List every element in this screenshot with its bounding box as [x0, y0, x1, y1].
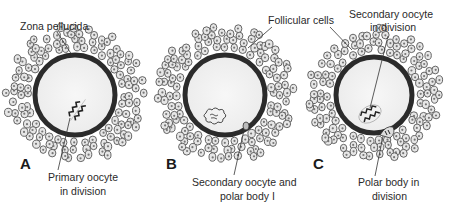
cell-nucleus — [200, 151, 202, 153]
cell-nucleus — [276, 111, 278, 113]
cell-nucleus — [110, 135, 112, 137]
cell-nucleus — [176, 86, 178, 88]
cell-nucleus — [419, 121, 421, 123]
cell-nucleus — [12, 101, 14, 103]
cell-nucleus — [229, 33, 231, 35]
polar-body-i-icon — [243, 122, 249, 130]
cell-nucleus — [267, 140, 269, 142]
cell-nucleus — [352, 37, 354, 39]
cell-nucleus — [259, 61, 261, 63]
cell-nucleus — [254, 47, 256, 49]
cell-nucleus — [33, 38, 35, 40]
cell-nucleus — [184, 130, 186, 132]
cell-nucleus — [224, 142, 226, 144]
cell-nucleus — [227, 149, 229, 151]
cell-nucleus — [214, 140, 216, 142]
cell-nucleus — [65, 47, 67, 49]
cell-nucleus — [423, 115, 425, 117]
cell-nucleus — [286, 123, 288, 125]
cell-nucleus — [331, 112, 333, 114]
cell-nucleus — [116, 139, 118, 141]
cell-nucleus — [185, 46, 187, 48]
cell-nucleus — [191, 146, 193, 148]
cell-nucleus — [136, 102, 138, 104]
cell-nucleus — [255, 148, 257, 150]
cell-nucleus — [251, 141, 253, 143]
cell-nucleus — [403, 43, 405, 45]
cell-nucleus — [92, 41, 94, 43]
cell-nucleus — [20, 94, 22, 96]
cell-nucleus — [431, 81, 433, 83]
cell-nucleus — [319, 98, 321, 100]
cell-nucleus — [128, 95, 130, 97]
cell-nucleus — [207, 147, 209, 149]
cell-nucleus — [387, 144, 389, 146]
cell-nucleus — [224, 46, 226, 48]
cell-nucleus — [181, 59, 183, 61]
cell-nucleus — [410, 38, 412, 40]
cell-nucleus — [107, 154, 109, 156]
cell-nucleus — [179, 136, 181, 138]
cell-nucleus — [263, 121, 265, 123]
panel-b-oocyte — [185, 55, 265, 135]
cell-nucleus — [5, 92, 7, 94]
cell-nucleus — [189, 126, 191, 128]
cell-nucleus — [410, 47, 412, 49]
cell-nucleus — [337, 68, 339, 70]
cell-nucleus — [141, 79, 143, 81]
cell-nucleus — [169, 95, 171, 97]
cell-nucleus — [177, 105, 179, 107]
cell-nucleus — [402, 152, 404, 154]
cell-nucleus — [270, 110, 272, 112]
cell-nucleus — [179, 113, 181, 115]
cell-nucleus — [186, 53, 188, 55]
panel-a-oocyte — [35, 55, 115, 135]
cell-nucleus — [277, 61, 279, 63]
cell-nucleus — [321, 106, 323, 108]
cell-nucleus — [128, 135, 130, 137]
cell-nucleus — [39, 136, 41, 138]
cell-nucleus — [93, 145, 95, 147]
cell-nucleus — [270, 105, 272, 107]
cell-nucleus — [404, 53, 406, 55]
cell-nucleus — [361, 50, 363, 52]
cell-nucleus — [216, 40, 218, 42]
cell-nucleus — [27, 87, 29, 89]
cell-nucleus — [423, 75, 425, 77]
cell-nucleus — [285, 100, 287, 102]
cell-nucleus — [426, 92, 428, 94]
cell-nucleus — [258, 129, 260, 131]
cell-nucleus — [427, 54, 429, 56]
cell-nucleus — [181, 146, 183, 148]
cell-nucleus — [29, 135, 31, 137]
cell-nucleus — [115, 59, 117, 61]
cell-nucleus — [237, 27, 239, 29]
cell-nucleus — [233, 140, 235, 142]
cell-nucleus — [381, 49, 383, 51]
cell-nucleus — [204, 36, 206, 38]
cell-nucleus — [23, 113, 25, 115]
cell-nucleus — [120, 123, 122, 125]
cell-nucleus — [164, 124, 166, 126]
cell-nucleus — [128, 102, 130, 104]
cell-nucleus — [204, 50, 206, 52]
cell-nucleus — [135, 126, 137, 128]
cell-nucleus — [353, 150, 355, 152]
zona-pellucida-ring-a — [35, 55, 115, 135]
cell-nucleus — [284, 84, 286, 86]
cell-nucleus — [428, 70, 430, 72]
cell-nucleus — [15, 76, 17, 78]
cell-nucleus — [250, 132, 252, 134]
cell-nucleus — [186, 150, 188, 152]
cell-nucleus — [367, 47, 369, 49]
cell-nucleus — [18, 69, 20, 71]
cell-nucleus — [313, 93, 315, 95]
cell-nucleus — [279, 125, 281, 127]
cell-nucleus — [326, 55, 328, 57]
cell-nucleus — [274, 49, 276, 51]
cell-nucleus — [342, 61, 344, 63]
cell-nucleus — [121, 103, 123, 105]
cell-nucleus — [84, 141, 86, 143]
cell-nucleus — [396, 54, 398, 56]
cell-nucleus — [308, 103, 310, 105]
